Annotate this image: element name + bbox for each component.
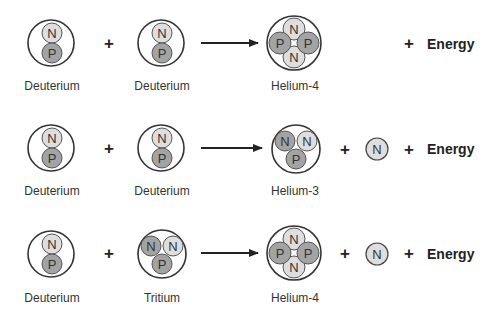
proton-icon: P: [152, 43, 172, 63]
svg-text:P: P: [292, 152, 301, 167]
deuterium-atom: N P: [28, 125, 74, 171]
svg-text:N: N: [289, 50, 298, 65]
plus-sign: +: [104, 139, 114, 158]
svg-text:P: P: [48, 257, 57, 272]
svg-text:N: N: [47, 131, 56, 146]
plus-sign: +: [340, 244, 350, 263]
svg-text:N: N: [157, 131, 166, 146]
reactant-1-label: Deuterium: [24, 291, 79, 305]
svg-text:P: P: [276, 246, 285, 261]
helium-4-atom: N N P P: [267, 16, 321, 70]
helium-4-atom: N N P P: [267, 226, 321, 280]
proton-icon: P: [152, 148, 172, 168]
neutron-icon: N: [42, 128, 62, 148]
svg-text:N: N: [302, 134, 311, 149]
reaction-row-2: N P Deuterium + N P Deuterium: [24, 125, 474, 198]
proton-icon: P: [42, 43, 62, 63]
reactant-1-label: Deuterium: [24, 184, 79, 198]
svg-text:P: P: [304, 246, 313, 261]
deuterium-atom: N P: [28, 20, 74, 66]
neutron-icon: N: [297, 131, 317, 151]
deuterium-atom: N P: [138, 125, 184, 171]
proton-icon: P: [42, 148, 62, 168]
product-label: Helium-4: [271, 79, 319, 93]
plus-sign: +: [104, 34, 114, 53]
neutron-icon: N: [141, 236, 161, 256]
svg-text:N: N: [146, 239, 155, 254]
energy-label: Energy: [427, 141, 475, 157]
tritium-atom: N N P: [138, 230, 186, 278]
svg-text:N: N: [289, 260, 298, 275]
reaction-row-1: N P Deuterium + N P Deuterium: [24, 16, 474, 93]
svg-text:P: P: [304, 36, 313, 51]
proton-icon: P: [269, 32, 291, 54]
proton-icon: P: [297, 242, 319, 264]
svg-text:P: P: [158, 151, 167, 166]
svg-text:N: N: [289, 232, 298, 247]
deuterium-atom: N P: [28, 231, 74, 277]
product-label: Helium-3: [271, 184, 319, 198]
reactant-2-label: Tritium: [144, 291, 180, 305]
svg-text:N: N: [372, 247, 381, 262]
proton-icon: P: [297, 32, 319, 54]
plus-sign: +: [404, 34, 414, 53]
svg-text:N: N: [47, 237, 56, 252]
neutron-icon: N: [163, 236, 183, 256]
svg-text:P: P: [48, 46, 57, 61]
energy-label: Energy: [427, 36, 475, 52]
proton-icon: P: [42, 254, 62, 274]
svg-text:N: N: [289, 22, 298, 37]
plus-sign: +: [404, 244, 414, 263]
plus-sign: +: [104, 244, 114, 263]
svg-text:P: P: [158, 46, 167, 61]
reactant-1-label: Deuterium: [24, 79, 79, 93]
energy-label: Energy: [427, 246, 475, 262]
free-neutron-icon: N: [366, 138, 388, 160]
neutron-icon: N: [152, 128, 172, 148]
svg-text:N: N: [47, 26, 56, 41]
svg-text:N: N: [168, 239, 177, 254]
svg-text:N: N: [372, 142, 381, 157]
deuterium-atom: N P: [138, 20, 184, 66]
proton-icon: P: [286, 149, 306, 169]
svg-text:N: N: [280, 134, 289, 149]
reactant-2-label: Deuterium: [134, 79, 189, 93]
plus-sign: +: [340, 140, 350, 159]
neutron-icon: N: [152, 23, 172, 43]
free-neutron-icon: N: [366, 243, 388, 265]
reaction-row-3: N P Deuterium + N N P Tritiu: [24, 226, 474, 305]
proton-icon: P: [269, 242, 291, 264]
svg-text:P: P: [158, 257, 167, 272]
svg-text:P: P: [276, 36, 285, 51]
plus-sign: +: [404, 140, 414, 159]
neutron-icon: N: [275, 131, 295, 151]
helium-3-atom: N N P: [272, 125, 320, 173]
neutron-icon: N: [42, 234, 62, 254]
proton-icon: P: [152, 254, 172, 274]
svg-text:N: N: [157, 26, 166, 41]
reactant-2-label: Deuterium: [134, 184, 189, 198]
svg-text:P: P: [48, 151, 57, 166]
product-label: Helium-4: [271, 291, 319, 305]
neutron-icon: N: [42, 23, 62, 43]
